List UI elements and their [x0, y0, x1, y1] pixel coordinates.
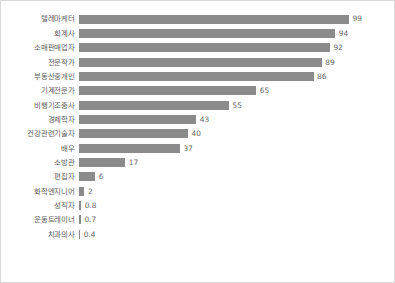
category-label: 소매판매업자 — [1, 44, 79, 51]
category-label: 회계사 — [1, 30, 79, 37]
bar-value-label: 0.4 — [84, 231, 96, 238]
bar — [79, 43, 330, 52]
bar — [79, 201, 81, 210]
bar — [79, 115, 196, 124]
bar-track: 2 — [79, 184, 394, 198]
bar-value-label: 17 — [129, 159, 138, 166]
bar — [79, 129, 188, 138]
bar-track: 37 — [79, 141, 394, 155]
bar — [79, 158, 125, 167]
bar-row: 기계전문가65 — [1, 84, 394, 98]
bar-value-label: 2 — [88, 188, 93, 195]
bar — [79, 86, 256, 95]
bar-row: 전문작가89 — [1, 55, 394, 69]
bar-row: 회계사94 — [1, 26, 394, 40]
bar-track: 92 — [79, 41, 394, 55]
bar-value-label: 65 — [260, 87, 269, 94]
category-label: 운동트레이너 — [1, 216, 79, 223]
bar-row: 경제학자43 — [1, 112, 394, 126]
bar-value-label: 92 — [333, 44, 342, 51]
category-label: 전문작가 — [1, 59, 79, 66]
category-label: 배우 — [1, 145, 79, 152]
bar-track: 17 — [79, 155, 394, 169]
bar-row: 소매판매업자92 — [1, 41, 394, 55]
bar-row: 치과의사0.4 — [1, 227, 394, 241]
bar — [79, 215, 81, 224]
bar-track: 89 — [79, 55, 394, 69]
bar-row: 배우37 — [1, 141, 394, 155]
bar — [79, 101, 229, 110]
bar-track: 0.7 — [79, 213, 394, 227]
bar-value-label: 37 — [183, 145, 192, 152]
bar-row: 부동산중개인86 — [1, 69, 394, 83]
category-label: 비행기조종사 — [1, 102, 79, 109]
bar-row: 운동트레이너0.7 — [1, 213, 394, 227]
bar — [79, 58, 322, 67]
bar — [79, 15, 349, 24]
bar-value-label: 86 — [317, 73, 326, 80]
category-label: 화학엔지니어 — [1, 188, 79, 195]
category-label: 편집자 — [1, 173, 79, 180]
bar-row: 비행기조종사55 — [1, 98, 394, 112]
bar-row: 화학엔지니어2 — [1, 184, 394, 198]
bar-row: 편집자6 — [1, 170, 394, 184]
bar-track: 0.4 — [79, 227, 394, 241]
bar-value-label: 89 — [325, 59, 334, 66]
bar-value-label: 0.8 — [85, 202, 97, 209]
bar-row: 성직자0.8 — [1, 198, 394, 212]
bar-track: 86 — [79, 69, 394, 83]
category-label: 소방관 — [1, 159, 79, 166]
plot-area: 텔레마케터99회계사94소매판매업자92전문작가89부동산중개인86기계전문가6… — [1, 12, 394, 270]
bar-track: 94 — [79, 26, 394, 40]
category-label: 치과의사 — [1, 231, 79, 238]
bar-track: 55 — [79, 98, 394, 112]
bar-track: 99 — [79, 12, 394, 26]
category-label: 경제학자 — [1, 116, 79, 123]
bar-chart-figure: 텔레마케터99회계사94소매판매업자92전문작가89부동산중개인86기계전문가6… — [0, 0, 395, 283]
category-label: 성직자 — [1, 202, 79, 209]
category-label: 기계전문가 — [1, 87, 79, 94]
bar-row: 소방관17 — [1, 155, 394, 169]
bar-value-label: 99 — [353, 15, 362, 22]
bar-value-label: 55 — [233, 102, 242, 109]
bar-value-label: 43 — [200, 116, 209, 123]
bar — [79, 29, 335, 38]
category-label: 텔레마케터 — [1, 15, 79, 22]
bar — [79, 187, 84, 196]
bar — [79, 172, 95, 181]
category-label: 부동산중개인 — [1, 73, 79, 80]
bar — [79, 72, 314, 81]
bar-value-label: 0.7 — [84, 216, 96, 223]
bar-value-label: 94 — [339, 30, 348, 37]
category-label: 건강관련기술자 — [1, 130, 79, 137]
bar-value-label: 40 — [192, 130, 201, 137]
bar — [79, 230, 80, 239]
bar-row: 텔레마케터99 — [1, 12, 394, 26]
bar-track: 40 — [79, 127, 394, 141]
bar — [79, 144, 180, 153]
bar-track: 65 — [79, 84, 394, 98]
bar-track: 6 — [79, 170, 394, 184]
bar-track: 43 — [79, 112, 394, 126]
bar-track: 0.8 — [79, 198, 394, 212]
bar-value-label: 6 — [99, 173, 104, 180]
bar-row: 건강관련기술자40 — [1, 127, 394, 141]
